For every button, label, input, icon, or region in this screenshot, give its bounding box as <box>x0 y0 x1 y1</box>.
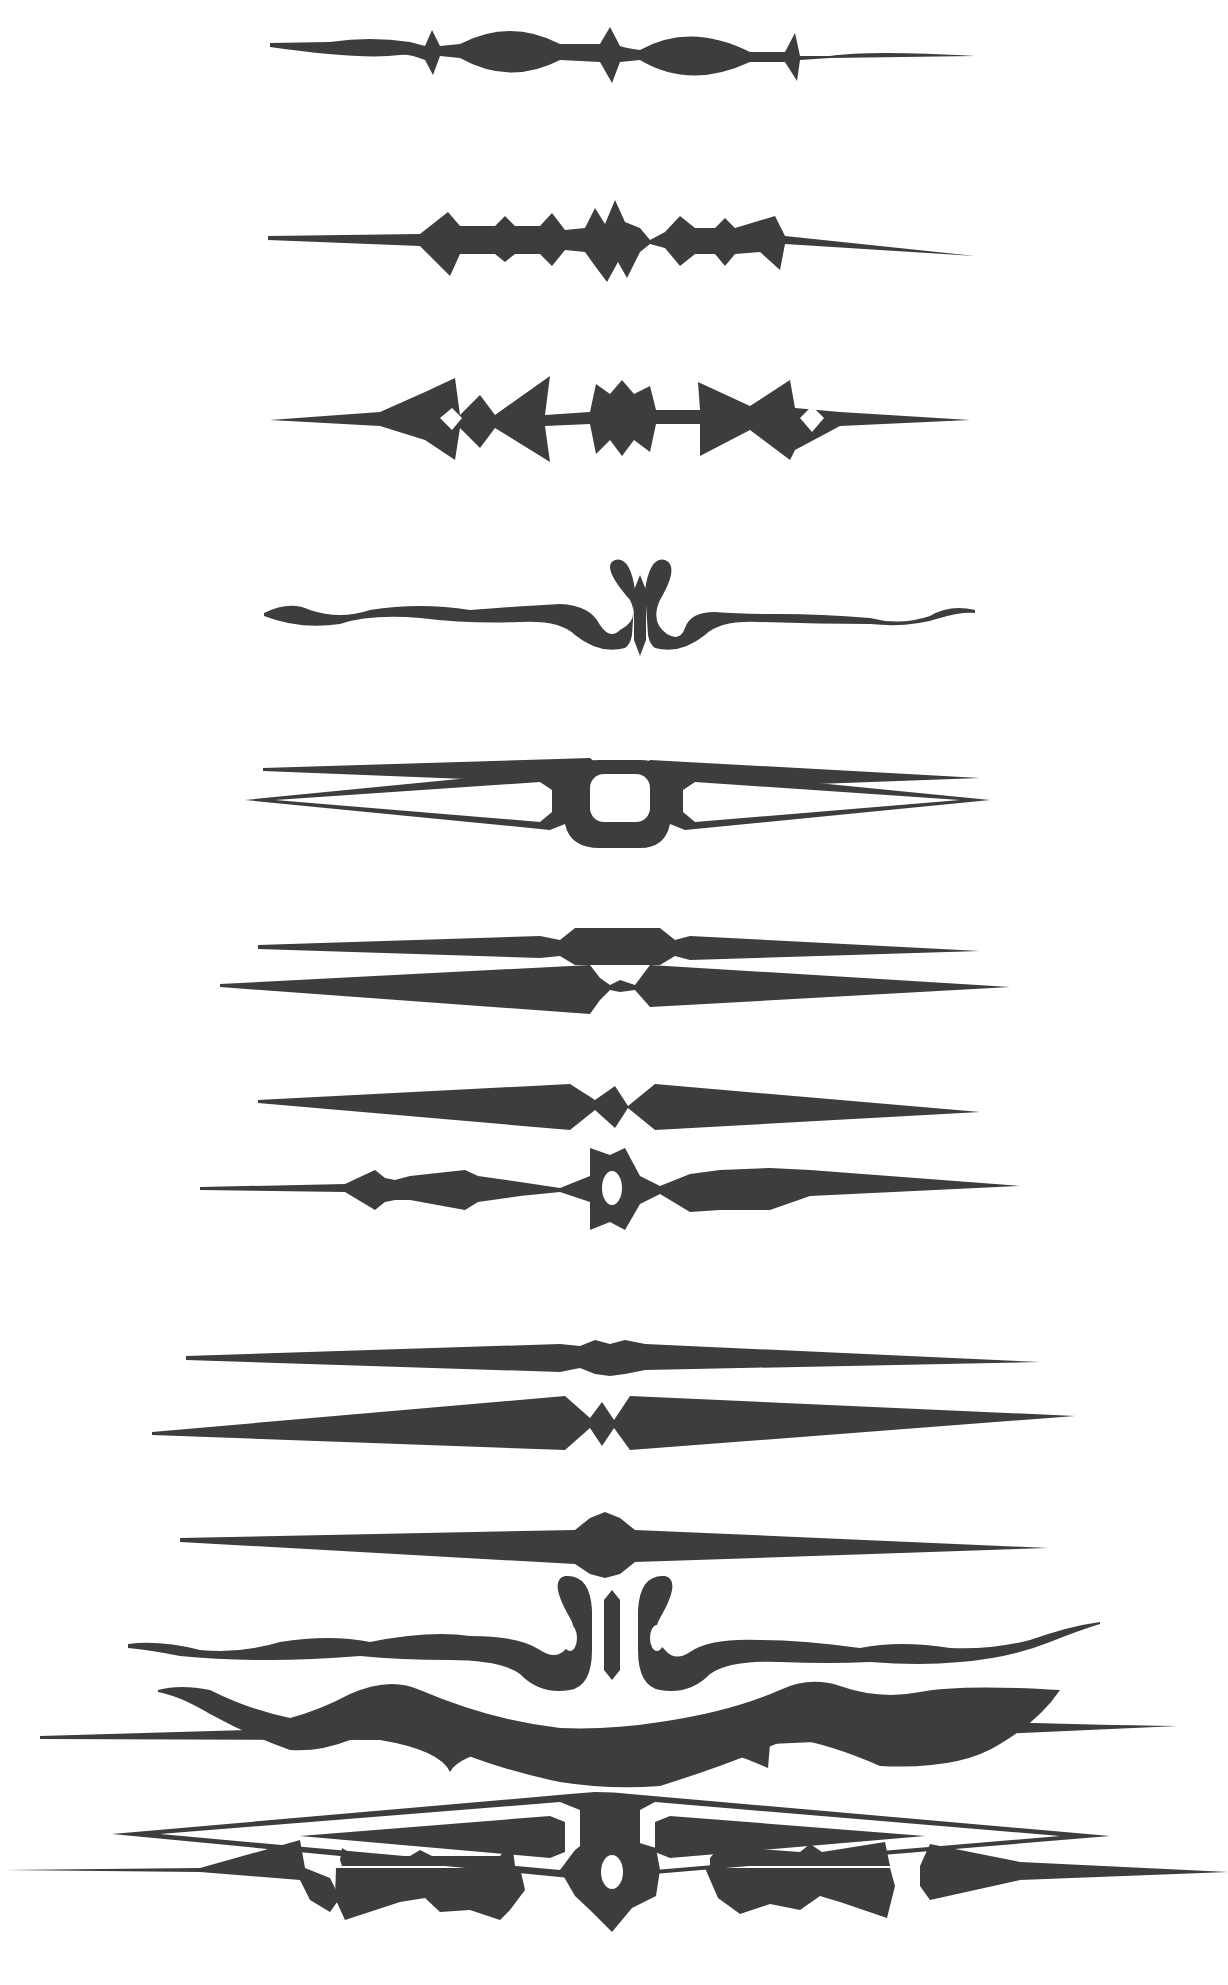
scroll-eye <box>604 598 616 610</box>
ornament-arrowhead-diamond-rule <box>270 376 970 462</box>
star-cutout <box>601 1855 623 1889</box>
ornament-scroll-wave-rule <box>264 560 975 656</box>
ornament-pinched-taper-rule <box>220 965 1010 1014</box>
ornament-diamond-gap-rule <box>152 1396 1075 1450</box>
scroll-eye <box>664 598 676 610</box>
loop-cutout <box>590 774 650 822</box>
ornament-ring-star-rule <box>200 1148 1020 1230</box>
scroll-eye <box>563 1625 577 1651</box>
scroll-eye <box>650 1625 664 1651</box>
ornament-beaded-lozenge-rule <box>270 27 975 83</box>
ornament-oval-bead-rule <box>180 1512 1048 1578</box>
ornament-sheet <box>0 0 1228 1985</box>
ring-cutout <box>602 1171 622 1205</box>
ornament-spiked-star-rule <box>268 200 975 282</box>
ornament-oblong-center-rule <box>258 928 980 965</box>
ornament-bead-taper-rule <box>186 1340 1040 1376</box>
ornament-diamond-taper-rule <box>258 1084 980 1130</box>
ornament-double-scroll-wave-rule <box>128 1576 1100 1691</box>
